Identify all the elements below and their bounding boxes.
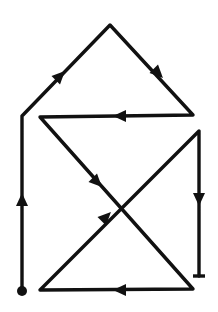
path-diagram [0, 0, 218, 312]
arrowhead-icon [113, 284, 126, 296]
arrowhead-icon [113, 110, 126, 122]
stroke-path [22, 25, 199, 291]
arrowhead-icon [16, 193, 28, 206]
arrowhead-icon [193, 193, 205, 206]
start-dot-icon [17, 286, 27, 296]
